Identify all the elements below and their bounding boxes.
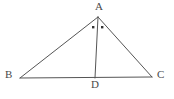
segment-ac xyxy=(98,17,152,77)
segment-ab xyxy=(20,17,98,78)
angle-mark-dac-icon xyxy=(101,26,103,28)
vertex-label-b: B xyxy=(5,69,12,80)
segment-bc xyxy=(20,77,152,78)
vertex-label-c: C xyxy=(157,69,164,80)
vertex-label-a: A xyxy=(95,1,103,12)
geometry-figure: A B C D xyxy=(0,0,174,99)
segment-ad xyxy=(95,17,98,78)
vertex-label-d: D xyxy=(91,79,99,90)
figure-canvas xyxy=(0,0,174,99)
angle-mark-bad-icon xyxy=(92,26,94,28)
